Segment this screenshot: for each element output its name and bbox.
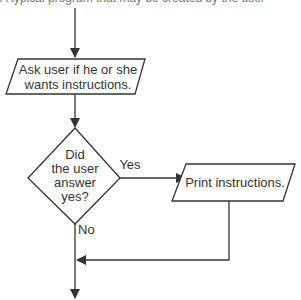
decision-line-1: Did	[44, 148, 106, 162]
output-box-text: Print instructions.	[180, 175, 290, 190]
decision-line-4: yes?	[44, 190, 106, 204]
decision-text: Did the user answer yes?	[44, 148, 106, 204]
input-line-2: wants instructions.	[18, 77, 138, 92]
flowchart-diagram: A typical program that may be created by…	[0, 0, 301, 300]
decision-line-2: the user	[44, 162, 106, 176]
yes-label: Yes	[113, 157, 147, 172]
no-label: No	[78, 222, 102, 237]
input-box-text: Ask user if he or she wants instructions…	[18, 62, 138, 92]
input-line-1: Ask user if he or she	[18, 62, 138, 77]
decision-line-3: answer	[44, 176, 106, 190]
